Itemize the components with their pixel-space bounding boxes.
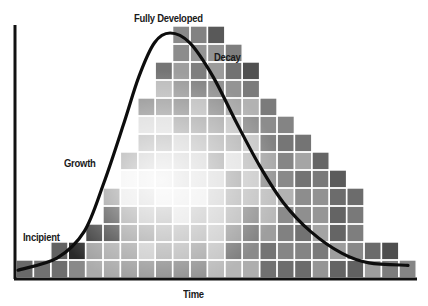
grid-tile	[364, 242, 381, 260]
grid-tile	[312, 170, 329, 188]
grid-tile	[347, 206, 364, 224]
grid-tile	[207, 26, 224, 44]
grid-tile	[381, 260, 398, 278]
label-incipient: Incipient	[23, 231, 60, 243]
grid-tile	[312, 206, 329, 224]
grid-tile	[329, 224, 346, 242]
grid-tile	[329, 260, 346, 278]
chart-canvas	[0, 0, 428, 306]
grid-tile	[381, 242, 398, 260]
grid-tile	[347, 188, 364, 206]
label-fully-developed: Fully Developed	[134, 12, 203, 24]
grid-tile	[312, 152, 329, 170]
label-decay: Decay	[214, 51, 241, 63]
fire-development-diagram: Incipient Growth Fully Developed Decay T…	[0, 0, 428, 306]
label-growth: Growth	[64, 157, 96, 169]
grid-tile	[312, 188, 329, 206]
grid-tile	[347, 224, 364, 242]
grid-tile	[329, 188, 346, 206]
x-axis-label: Time	[183, 288, 204, 300]
grid-tile	[329, 170, 346, 188]
grid-tile	[329, 206, 346, 224]
grid-tile	[173, 44, 190, 62]
flame-glow	[60, 60, 300, 278]
grid-tile	[190, 26, 207, 44]
grid-tile	[312, 260, 329, 278]
grid-tile	[399, 260, 416, 278]
